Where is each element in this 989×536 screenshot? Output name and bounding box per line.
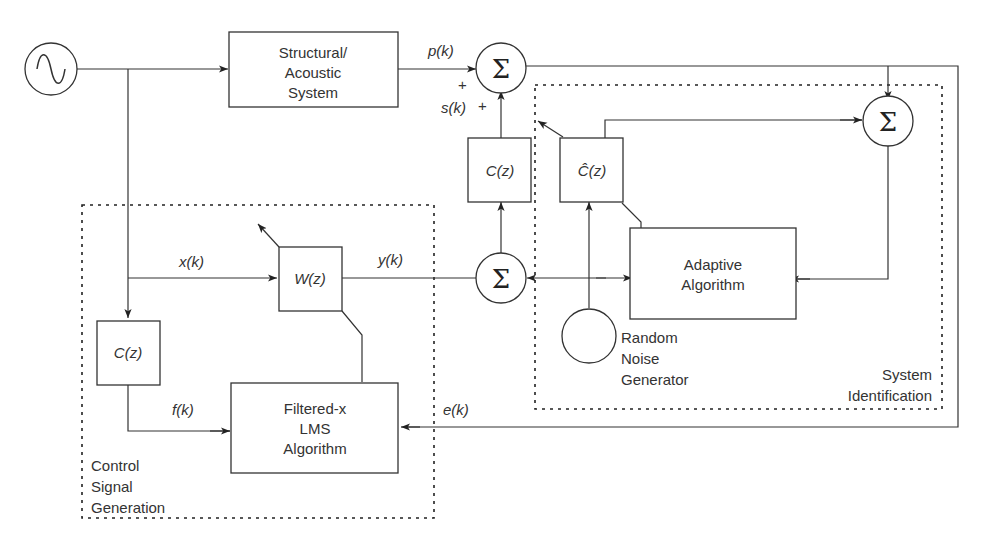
plant-label-line1: Structural/ <box>279 44 348 61</box>
control-region-label-line1: Control <box>91 457 139 474</box>
random-noise-generator <box>562 309 616 363</box>
adaptive-algorithm-block <box>630 228 796 319</box>
noise-generator-label-line3: Generator <box>621 371 689 388</box>
sysid-region-label-line1: System <box>882 366 932 383</box>
sigma-icon: Σ <box>492 54 510 84</box>
sigma-icon: Σ <box>879 107 897 137</box>
adaptive-algorithm-label-line2: Algorithm <box>681 276 744 293</box>
secondary-path-filter-label: C(z) <box>114 344 142 361</box>
signal-label-pk: p(k) <box>427 42 454 59</box>
plus-sign-pk: + <box>458 76 467 93</box>
noise-generator-label-line2: Noise <box>621 350 659 367</box>
sigma-icon: Σ <box>492 264 510 294</box>
fxlms-label-line1: Filtered-x <box>284 400 347 417</box>
wire-adapt-update <box>622 203 641 228</box>
wire-fxlms-to-wz <box>342 311 362 382</box>
signal-label-fk: f(k) <box>172 401 194 418</box>
secondary-path-label: C(z) <box>486 162 514 179</box>
noise-generator-label-line1: Random <box>621 329 678 346</box>
adaptive-algorithm-label-line1: Adaptive <box>684 256 742 273</box>
signal-label-yk: y(k) <box>377 251 403 268</box>
anc-block-diagram: Structural/ Acoustic System Σ Σ Σ C(z) Ĉ… <box>0 0 989 536</box>
control-region-label-line3: Generation <box>91 499 165 516</box>
plant-label-line2: Acoustic <box>285 64 342 81</box>
plant-label-line3: System <box>288 84 338 101</box>
control-region-label-line2: Signal <box>91 478 133 495</box>
signal-label-sk: s(k) <box>441 99 466 116</box>
chat-adapt-arrow <box>538 121 563 137</box>
signal-label-ek: e(k) <box>443 401 469 418</box>
plus-sign-sk: + <box>478 97 487 114</box>
wz-adapt-arrow <box>258 224 279 247</box>
wire-chat-to-sum2 <box>605 120 862 138</box>
secondary-path-estimate-label: Ĉ(z) <box>578 162 606 179</box>
wire-sum2-to-adaptive <box>790 146 888 279</box>
fxlms-label-line2: LMS <box>300 420 331 437</box>
adaptive-filter-label: W(z) <box>294 270 326 287</box>
fxlms-label-line3: Algorithm <box>283 440 346 457</box>
signal-label-xk: x(k) <box>178 253 204 270</box>
sysid-region-label-line2: Identification <box>848 387 932 404</box>
